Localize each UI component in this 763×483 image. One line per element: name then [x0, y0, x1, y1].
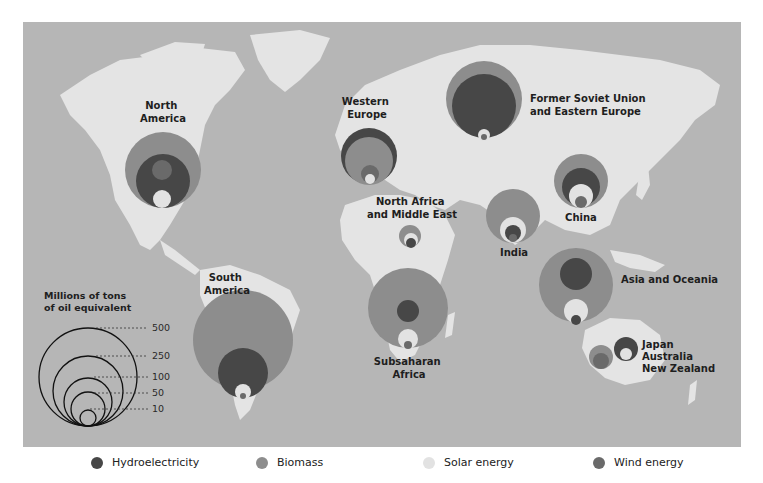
bubble-china	[554, 154, 608, 208]
scale-title: Millions of tons of oil equivalent	[44, 290, 132, 313]
scale-label-10: 10	[152, 403, 164, 414]
hydro-circle	[397, 300, 419, 322]
label-china: China	[565, 212, 597, 223]
solar-dot-icon	[423, 457, 435, 469]
biomass-dot-icon	[256, 457, 268, 469]
legend-label: Wind energy	[614, 456, 683, 469]
solar-circle	[153, 190, 171, 208]
scale-label-100: 100	[152, 371, 170, 382]
label-india: India	[500, 247, 528, 258]
world-map: North America Western Europe Former Sovi…	[0, 0, 763, 452]
scale-label-50: 50	[152, 387, 164, 398]
wind-circle	[404, 341, 412, 349]
legend-label: Hydroelectricity	[112, 456, 199, 469]
scale-label-250: 250	[152, 350, 170, 361]
wind-circle	[571, 315, 581, 325]
legend-item-solar: Solar energy	[423, 456, 514, 469]
wind-circle	[240, 393, 246, 399]
energy-legend: Hydroelectricity Biomass Solar energy Wi…	[0, 452, 763, 476]
hydro-circle	[406, 238, 416, 248]
label-asia-oceania: Asia and Oceania	[621, 274, 718, 285]
wind-dot-icon	[593, 457, 605, 469]
legend-item-hydroelectricity: Hydroelectricity	[91, 456, 199, 469]
hydro-circle	[452, 74, 516, 138]
hydro-circle	[560, 258, 592, 290]
bubble-north-america	[125, 132, 201, 208]
solar-circle	[365, 174, 375, 184]
legend-item-biomass: Biomass	[256, 456, 323, 469]
wind-circle	[509, 234, 517, 242]
solar-circle	[620, 348, 632, 360]
hydroelectricity-dot-icon	[91, 457, 103, 469]
bubble-india	[486, 189, 540, 243]
legend-item-wind: Wind energy	[593, 456, 683, 469]
wind-circle	[593, 353, 609, 369]
legend-label: Solar energy	[444, 456, 514, 469]
legend-label: Biomass	[277, 456, 323, 469]
wind-circle	[481, 134, 487, 140]
scale-label-500: 500	[152, 322, 170, 333]
wind-circle	[152, 160, 172, 180]
wind-circle	[575, 196, 587, 208]
